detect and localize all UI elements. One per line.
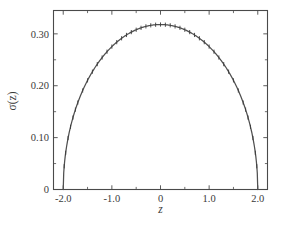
x-tick-label: 1.0	[203, 193, 216, 204]
y-tick-label: 0.10	[31, 132, 49, 143]
y-tick-labels: 00.100.200.30	[31, 29, 49, 196]
y-tick-label: 0	[44, 184, 49, 195]
axes-rectangle	[54, 11, 268, 190]
chart-canvas: -2.0-1.001.02.0 00.100.200.30 z σ(z)	[0, 0, 286, 229]
x-tick-label: -2.0	[55, 193, 72, 204]
data-series-group	[63, 22, 258, 189]
x-axis-title: z	[157, 203, 163, 215]
x-tick-label: 2.0	[251, 193, 264, 204]
axis-ticks	[54, 11, 268, 190]
y-axis-title: σ(z)	[6, 91, 19, 110]
data-point-markers	[64, 22, 257, 168]
figure-container: -2.0-1.001.02.0 00.100.200.30 z σ(z)	[0, 0, 286, 229]
x-tick-label: -1.0	[104, 193, 121, 204]
y-tick-label: 0.30	[31, 29, 49, 40]
plot-frame	[54, 11, 268, 190]
y-tick-label: 0.20	[31, 80, 49, 91]
semicircle-curve	[63, 25, 258, 190]
